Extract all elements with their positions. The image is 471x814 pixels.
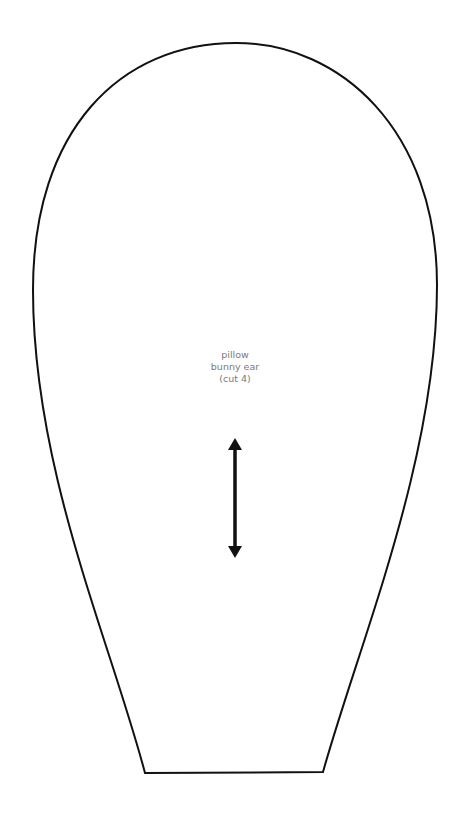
cut-instruction: (cut 4) [185,373,285,385]
piece-name-line2: bunny ear [185,361,285,373]
piece-label: pillow bunny ear (cut 4) [185,349,285,385]
piece-name-line1: pillow [185,349,285,361]
pattern-piece [0,0,471,814]
pattern-outline [33,43,437,773]
grainline-arrow-icon [228,438,242,558]
